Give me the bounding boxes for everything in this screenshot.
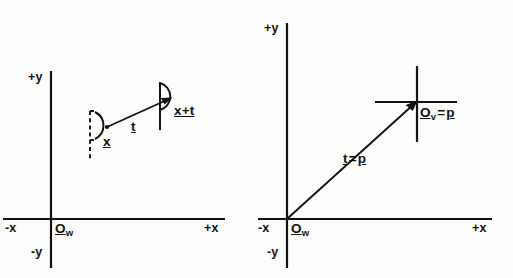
position-vector-equals: = xyxy=(348,151,358,166)
view-origin-value: p xyxy=(446,105,454,120)
left-x-positive-label: +x xyxy=(204,222,219,235)
left-y-positive-label: +y xyxy=(28,71,43,84)
right-origin-subscript: w xyxy=(302,227,310,238)
view-origin-subscript: v xyxy=(431,111,436,122)
right-x-positive-label: +x xyxy=(472,222,487,235)
right-origin-label: Ow xyxy=(291,222,309,236)
left-translation-vector xyxy=(107,97,173,127)
translation-vector-text: t xyxy=(131,119,136,134)
source-point-text: x xyxy=(103,134,111,149)
right-origin-symbol: O xyxy=(291,221,302,236)
translation-arrow-head xyxy=(161,97,173,104)
left-origin-symbol: O xyxy=(55,221,66,236)
right-x-negative-label: -x xyxy=(258,222,270,235)
view-origin-equals: = xyxy=(436,105,446,120)
position-vector-rhs: p xyxy=(358,151,366,166)
source-point-label: x xyxy=(103,135,111,149)
position-vector-lhs: t xyxy=(343,151,348,166)
view-origin-symbol: O xyxy=(420,105,431,120)
left-target-frame xyxy=(160,82,170,130)
target-point-label: x+t xyxy=(174,104,195,118)
left-origin-subscript: w xyxy=(66,227,74,238)
translation-vector-label: t xyxy=(131,120,136,134)
right-y-negative-label: -y xyxy=(267,246,279,259)
target-point-text: x+t xyxy=(174,103,195,118)
left-y-negative-label: -y xyxy=(31,246,43,259)
target-frame-arc xyxy=(160,83,170,110)
right-y-positive-label: +y xyxy=(264,22,279,35)
diagram-vector-graphics xyxy=(0,0,513,278)
left-x-negative-label: -x xyxy=(5,222,17,235)
left-origin-label: Ow xyxy=(55,222,73,236)
left-panel-axes xyxy=(3,71,225,268)
figure-canvas: +y -x +x -y Ow x t x+t +y -x +x -y Ow Ov… xyxy=(0,0,513,278)
position-vector-label: t=p xyxy=(343,152,366,166)
view-origin-label: Ov=p xyxy=(420,106,455,120)
